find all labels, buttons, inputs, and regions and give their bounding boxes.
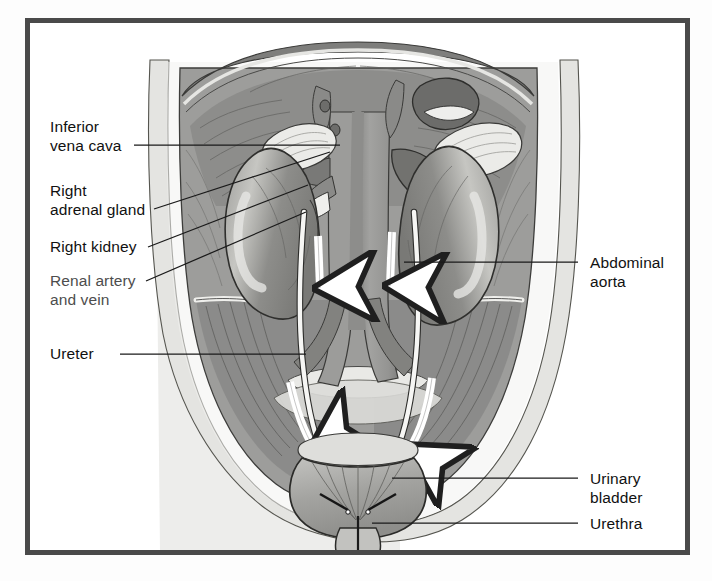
urethra-flow-arrow (352, 556, 364, 572)
label-right-kidney: Right kidney (50, 238, 137, 257)
figure-canvas: Inferior vena cava Right adrenal gland R… (0, 0, 712, 581)
label-right-adrenal-gland: Right adrenal gland (50, 182, 145, 219)
urinary-bladder-group (290, 433, 427, 572)
label-urethra: Urethra (590, 515, 642, 534)
label-ureter: Ureter (50, 345, 94, 364)
label-renal-artery-and-vein: Renal artery and vein (50, 272, 136, 309)
bladder-dome-rim (298, 433, 418, 466)
label-abdominal-aorta: Abdominal aorta (590, 254, 664, 291)
label-urinary-bladder: Urinary bladder (590, 470, 642, 507)
label-inferior-vena-cava: Inferior vena cava (50, 118, 122, 155)
